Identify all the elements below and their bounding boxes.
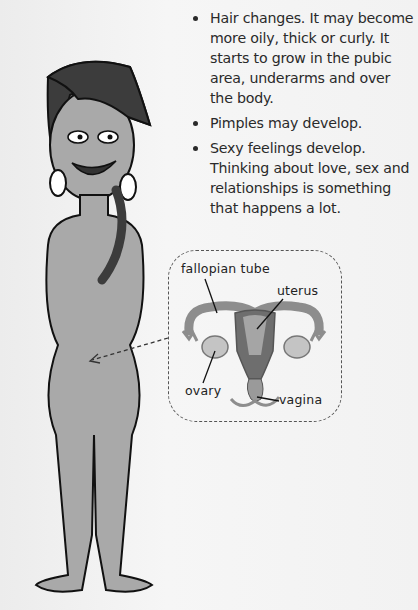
bullet-item: Hair changes. It may become more oily, t… xyxy=(190,8,415,108)
bullet-item: Pimples may develop. xyxy=(190,113,415,133)
reproductive-diagram: fallopian tube uterus ovary vagina xyxy=(168,250,342,422)
cartoon-figure-illustration xyxy=(20,55,170,600)
bullet-item: Sexy feelings develop. Thinking about lo… xyxy=(190,138,415,218)
uterus-organ-illustration xyxy=(169,251,341,421)
body xyxy=(36,195,152,592)
earring-left xyxy=(50,170,66,196)
ovary-left xyxy=(202,336,228,358)
bullet-list: Hair changes. It may become more oily, t… xyxy=(190,8,415,223)
ovary-right xyxy=(284,336,310,358)
